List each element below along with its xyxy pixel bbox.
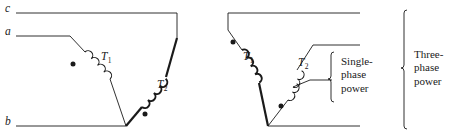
- transformer-label-t2-right: T2: [298, 56, 308, 69]
- single-phase-bracket: [328, 52, 334, 102]
- line-c-conductor: [16, 13, 177, 38]
- terminal-label-c: c: [5, 2, 10, 15]
- line-upper-left-lead-right: [228, 13, 242, 50]
- transformer-connection-figure: c a b T1 T2 T1 T2 Single- phase power Th…: [0, 0, 465, 139]
- transformer-label-t1-left-letter: T: [101, 50, 107, 62]
- polarity-dot-t2-left: [143, 112, 148, 117]
- single-phase-power-line-1: Single-: [341, 55, 373, 68]
- polarity-dot-t2-right: [279, 104, 284, 109]
- line-t2-lower-lead-left: [126, 107, 142, 126]
- single-phase-power-line-3: power: [341, 82, 373, 95]
- line-a-conductor: [16, 36, 85, 52]
- polarity-dot-t1-left: [71, 62, 76, 67]
- polarity-dot-t1-right: [231, 40, 236, 45]
- diagram-left: [16, 13, 177, 126]
- three-phase-bracket: [401, 10, 407, 129]
- single-phase-power-label: Single- phase power: [341, 55, 373, 95]
- transformer-label-t1-left: T1: [101, 50, 111, 63]
- three-phase-power-line-2: phase: [414, 61, 443, 74]
- line-t1-lower-lead-right: [259, 83, 268, 126]
- terminal-label-a: a: [5, 25, 11, 38]
- figure-canvas: [0, 0, 465, 139]
- single-phase-power-line-2: phase: [341, 68, 373, 81]
- transformer-label-t1-right-letter: T: [243, 50, 249, 62]
- line-t2-lower-lead-right: [268, 100, 288, 126]
- line-t2-upper-lead-left: [166, 38, 177, 77]
- terminal-label-b: b: [5, 115, 11, 128]
- transformer-label-t1-left-subscript: 1: [108, 56, 112, 65]
- transformer-label-t2-right-letter: T: [298, 56, 304, 68]
- line-t1-lower-lead-left: [110, 79, 126, 126]
- transformer-label-t2-right-subscript: 2: [305, 62, 309, 71]
- transformer-label-t1-right-subscript: 1: [250, 56, 254, 65]
- transformer-label-t2-left: T2: [157, 78, 167, 91]
- transformer-label-t2-left-letter: T: [157, 78, 163, 90]
- three-phase-power-line-3: power: [414, 75, 443, 88]
- three-phase-power-line-1: Three-: [414, 48, 443, 61]
- transformer-label-t1-right: T1: [243, 50, 253, 63]
- transformer-label-t2-left-subscript: 2: [164, 84, 168, 93]
- three-phase-power-label: Three- phase power: [414, 48, 443, 88]
